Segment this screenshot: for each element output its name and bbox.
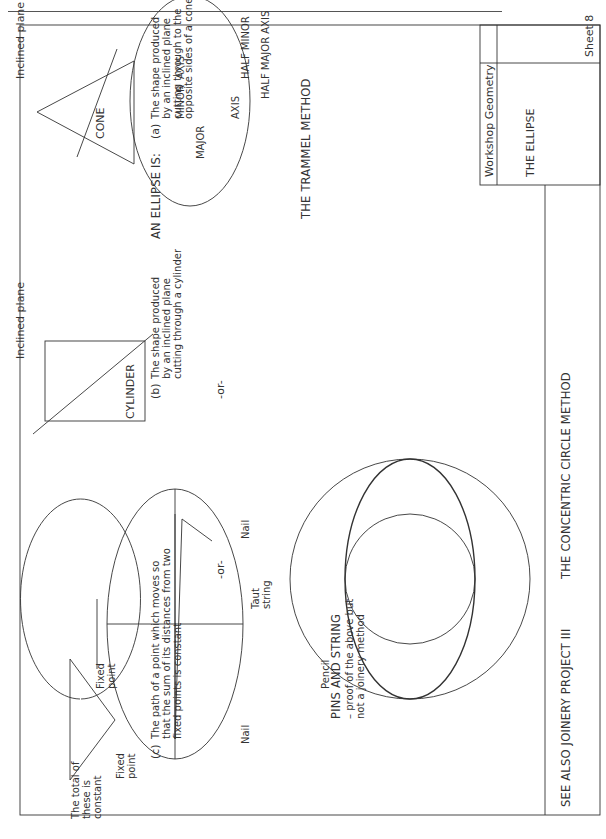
concentric-method-caption: THE CONCENTRIC CIRCLE METHOD [560, 372, 572, 579]
trammel-axis-label-1: AXIS [230, 96, 241, 119]
cylinder-plane-label: Inclined plane [15, 282, 27, 359]
trammel-half-major-label: HALF MAJOR AXIS [260, 11, 271, 99]
subject-label: Workshop Geometry [484, 64, 496, 177]
separator-1: -or- [215, 380, 227, 399]
focal-ellipse [21, 499, 141, 699]
trammel-caption: THE TRAMMEL METHOD [300, 78, 312, 219]
cone-plane-label: Inclined plane [15, 2, 27, 79]
fixed-point-label-1: Fixed point [115, 753, 137, 779]
sheet-number: Sheet 8 [584, 15, 596, 57]
trammel-half-minor-label: HALF MINOR [240, 16, 251, 79]
def-a-marker: (a) [150, 124, 162, 139]
taut-string-label: Taut string [250, 580, 272, 609]
trammel-axis-label-2: AXIS [175, 56, 186, 79]
cone-triangle [37, 49, 134, 164]
pins-string-title: PINS AND STRING [330, 614, 342, 719]
fixed-point-label-2: Fixed point [95, 663, 117, 689]
def-c-text: The path of a point which moves so that … [150, 548, 183, 739]
def-a-text: The shape produced by an inclined plane … [150, 0, 194, 119]
see-also-note: SEE ALSO JOINERY PROJECT III [560, 628, 572, 807]
separator-2: -or- [215, 560, 227, 579]
title-block-frame [480, 25, 600, 185]
ellipse-intro: AN ELLIPSE IS: [150, 153, 162, 239]
drawing-sheet: Workshop Geometry THE ELLIPSE Sheet 8 SE… [0, 0, 606, 839]
sheet-title: THE ELLIPSE [525, 109, 537, 177]
cylinder-label: CYLINDER [125, 364, 137, 419]
pencil-label: Pencil [320, 660, 331, 689]
nail-label-1: Nail [240, 725, 251, 744]
pins-string-subtitle: – proof of the above but not a joinery m… [344, 599, 366, 719]
cone-label: CONE [95, 107, 107, 139]
def-b-marker: (b) [150, 383, 162, 399]
nail-label-2: Nail [240, 520, 251, 539]
def-c-marker: (c) [150, 744, 162, 759]
total-constant-label: The total of these is constant [70, 762, 103, 819]
trammel-minor-label: MINOR [175, 85, 186, 119]
def-b-text: The shape produced by an inclined plane … [150, 249, 183, 379]
trammel-major-label: MAJOR [195, 126, 206, 159]
